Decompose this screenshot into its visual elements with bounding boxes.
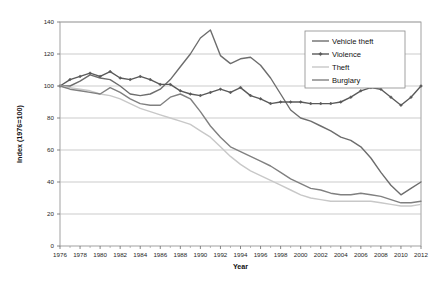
xtick-label-2012: 2012 [414, 251, 428, 258]
xtick-label-1994: 1994 [234, 251, 248, 258]
ytick-label-60: 60 [47, 146, 54, 153]
xtick-label-2010: 2010 [394, 251, 408, 258]
legend-label-violence: Violence [332, 50, 361, 59]
xtick-label-1996: 1996 [254, 251, 268, 258]
xtick-label-1992: 1992 [214, 251, 228, 258]
ytick-label-20: 20 [47, 210, 54, 217]
xtick-label-1982: 1982 [113, 251, 127, 258]
xtick-label-1998: 1998 [274, 251, 288, 258]
legend-label-vehicle-theft: Vehicle theft [332, 37, 374, 46]
ytick-label-140: 140 [44, 18, 55, 25]
xtick-label-2000: 2000 [294, 251, 308, 258]
xtick-label-1978: 1978 [73, 251, 87, 258]
xtick-label-1990: 1990 [194, 251, 208, 258]
xtick-label-2008: 2008 [374, 251, 388, 258]
xtick-label-2002: 2002 [314, 251, 328, 258]
ytick-label-80: 80 [47, 114, 54, 121]
chart-canvas: 0204060801001201401976197819801982198419… [0, 0, 436, 285]
ytick-label-100: 100 [44, 82, 55, 89]
x-axis-title: Year [233, 262, 248, 271]
y-axis-title: Index (1976=100) [15, 105, 24, 163]
ytick-label-40: 40 [47, 178, 54, 185]
xtick-label-2006: 2006 [354, 251, 368, 258]
xtick-label-1984: 1984 [133, 251, 147, 258]
xtick-label-1976: 1976 [53, 251, 67, 258]
ytick-label-120: 120 [44, 50, 55, 57]
xtick-label-1988: 1988 [173, 251, 187, 258]
legend-label-burglary: Burglary [332, 76, 360, 85]
xtick-label-1986: 1986 [153, 251, 167, 258]
xtick-label-1980: 1980 [93, 251, 107, 258]
xtick-label-2004: 2004 [334, 251, 348, 258]
legend-label-theft: Theft [332, 63, 350, 72]
crime-index-line-chart: 0204060801001201401976197819801982198419… [0, 0, 436, 285]
ytick-label-0: 0 [51, 242, 55, 249]
